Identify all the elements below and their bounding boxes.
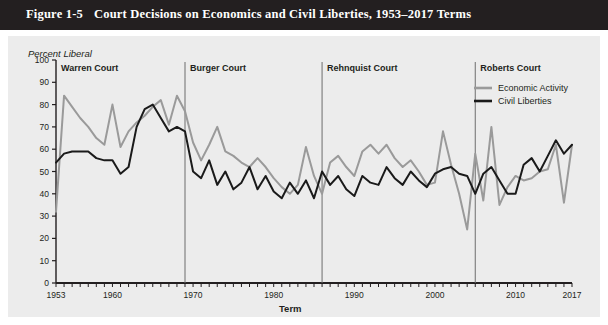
x-tick-label: 1980 <box>257 290 291 300</box>
era-label-rehnquist-court: Rehnquist Court <box>327 63 398 73</box>
y-tick-label: 50 <box>29 167 49 177</box>
era-label-warren-court: Warren Court <box>61 63 118 73</box>
chart-panel <box>8 36 600 317</box>
x-tick-label: 2010 <box>499 290 533 300</box>
y-tick-label: 60 <box>29 144 49 154</box>
x-axis-title: Term <box>279 303 302 314</box>
x-tick-label: 2017 <box>555 290 589 300</box>
y-tick-label: 10 <box>29 256 49 266</box>
legend-label-civil-liberties: Civil Liberties <box>498 96 552 106</box>
x-tick-label: 1960 <box>95 290 129 300</box>
y-tick-label: 100 <box>29 55 49 65</box>
x-tick-label: 1990 <box>337 290 371 300</box>
x-tick-label: 1953 <box>39 290 73 300</box>
figure-number: Figure 1-5 <box>26 7 83 21</box>
x-tick-label: 1970 <box>176 290 210 300</box>
line-chart <box>8 36 600 317</box>
y-tick-label: 40 <box>29 189 49 199</box>
era-label-burger-court: Burger Court <box>190 63 246 73</box>
y-tick-label: 20 <box>29 233 49 243</box>
legend-label-economic-activity: Economic Activity <box>498 83 568 93</box>
x-tick-label: 2000 <box>418 290 452 300</box>
y-tick-label: 30 <box>29 211 49 221</box>
page-title: Figure 1-5Court Decisions on Economics a… <box>26 7 471 22</box>
y-tick-label: 80 <box>29 100 49 110</box>
y-tick-label: 90 <box>29 77 49 87</box>
figure-1-5: Figure 1-5Court Decisions on Economics a… <box>0 0 608 325</box>
y-tick-label: 0 <box>29 278 49 288</box>
y-tick-label: 70 <box>29 122 49 132</box>
figure-title-text: Court Decisions on Economics and Civil L… <box>94 7 471 21</box>
figure-title-bar: Figure 1-5Court Decisions on Economics a… <box>0 0 608 30</box>
era-label-roberts-court: Roberts Court <box>480 63 541 73</box>
